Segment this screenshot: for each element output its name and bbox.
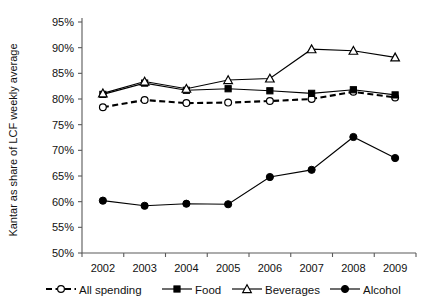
- filled-square-marker: [309, 90, 315, 96]
- line-chart: Kantar as share of LCF weekly average 50…: [0, 0, 428, 308]
- y-tick-label: 85%: [52, 67, 74, 79]
- filled-square-marker: [350, 87, 356, 93]
- open-circle-marker: [183, 100, 190, 107]
- chart-axes: [78, 18, 416, 257]
- legend-label: All spending: [79, 284, 142, 296]
- y-axis-title: Kantar as share of LCF weekly average: [7, 43, 19, 236]
- open-circle-marker: [225, 99, 232, 106]
- open-circle-marker: [58, 286, 65, 293]
- filled-square-marker: [267, 88, 273, 94]
- y-axis-tick-labels: 50%55%60%65%70%75%80%85%90%95%: [52, 16, 74, 259]
- filled-circle-marker: [341, 285, 348, 292]
- x-tick-label: 2007: [299, 262, 323, 274]
- legend-label: Food: [195, 284, 221, 296]
- series-alcohol: [99, 133, 398, 209]
- filled-square-marker: [392, 92, 398, 98]
- legend-label: Alcohol: [363, 284, 401, 296]
- x-axis-tick-labels: 20022003200420052006200720082009: [91, 262, 408, 274]
- filled-circle-marker: [350, 133, 357, 140]
- legend-item-alcohol[interactable]: Alcohol: [330, 284, 401, 296]
- filled-square-marker: [174, 286, 180, 292]
- y-tick-label: 80%: [52, 93, 74, 105]
- y-tick-label: 75%: [52, 119, 74, 131]
- x-tick-label: 2008: [341, 262, 365, 274]
- legend-item-beverages[interactable]: Beverages: [232, 284, 320, 296]
- chart-container: Kantar as share of LCF weekly average 50…: [0, 0, 428, 308]
- legend-label: Beverages: [265, 284, 320, 296]
- x-tick-label: 2003: [132, 262, 156, 274]
- series-line: [103, 137, 395, 206]
- chart-series-layer: [99, 45, 400, 209]
- x-tick-label: 2006: [258, 262, 282, 274]
- filled-circle-marker: [392, 154, 399, 161]
- open-circle-marker: [266, 98, 273, 105]
- legend-item-food[interactable]: Food: [162, 284, 221, 296]
- filled-circle-marker: [308, 166, 315, 173]
- filled-circle-marker: [183, 200, 190, 207]
- x-tick-label: 2004: [174, 262, 198, 274]
- filled-circle-marker: [266, 173, 273, 180]
- x-tick-label: 2002: [91, 262, 115, 274]
- y-tick-label: 65%: [52, 170, 74, 182]
- y-tick-label: 70%: [52, 144, 74, 156]
- y-tick-label: 60%: [52, 196, 74, 208]
- open-circle-marker: [99, 104, 106, 111]
- chart-legend: All spendingFoodBeveragesAlcohol: [46, 284, 401, 296]
- y-axis-title-label: Kantar as share of LCF weekly average: [7, 43, 19, 236]
- filled-circle-marker: [141, 202, 148, 209]
- y-tick-label: 90%: [52, 42, 74, 54]
- filled-circle-marker: [225, 201, 232, 208]
- filled-circle-marker: [99, 197, 106, 204]
- y-tick-label: 50%: [52, 247, 74, 259]
- y-tick-label: 95%: [52, 16, 74, 28]
- y-tick-label: 55%: [52, 221, 74, 233]
- filled-square-marker: [225, 86, 231, 92]
- open-circle-marker: [141, 97, 148, 104]
- x-tick-label: 2005: [216, 262, 240, 274]
- legend-item-all-spending[interactable]: All spending: [46, 284, 142, 296]
- x-tick-label: 2009: [383, 262, 407, 274]
